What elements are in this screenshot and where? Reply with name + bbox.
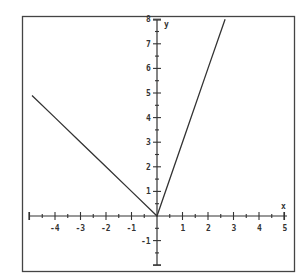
- x-tick-label: 1: [181, 224, 186, 233]
- y-tick-label: 7: [146, 40, 151, 49]
- y-tick-label: 4: [146, 114, 151, 123]
- y-tick-label: 5: [146, 89, 151, 98]
- y-tick-labels: -112345678: [141, 15, 151, 245]
- x-tick-label: 2: [206, 224, 211, 233]
- function-line: [32, 19, 225, 216]
- y-tick-label: -1: [141, 237, 151, 246]
- x-axis-label: x: [281, 202, 286, 211]
- x-tick-label: -2: [101, 224, 111, 233]
- y-tick-label: 8: [146, 15, 151, 24]
- x-tick-label: -1: [127, 224, 137, 233]
- x-tick-label: 4: [257, 224, 262, 233]
- y-axis-label: y: [164, 20, 169, 29]
- x-tick-label: -3: [76, 224, 86, 233]
- x-tick-label: 3: [232, 224, 237, 233]
- y-tick-label: 1: [146, 187, 151, 196]
- x-tick-labels: -4-3-2-112345: [50, 224, 288, 233]
- function-graph: y x -4-3-2-112345 -112345678: [0, 0, 301, 274]
- axis-ticks: [30, 19, 285, 265]
- x-tick-label: 5: [283, 224, 288, 233]
- x-tick-label: -4: [50, 224, 60, 233]
- plot-frame: [23, 17, 295, 272]
- y-tick-label: 2: [146, 163, 151, 172]
- y-tick-label: 3: [146, 138, 151, 147]
- y-tick-label: 6: [146, 64, 151, 73]
